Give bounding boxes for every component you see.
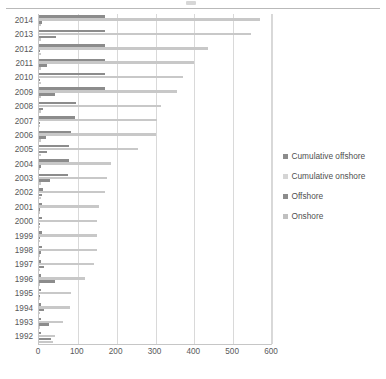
x-axis-tick-labels: 0100200300400500600: [38, 348, 272, 364]
bar-group-1994: [39, 302, 271, 316]
legend-swatch-icon: [283, 194, 288, 199]
bar-group-2005: [39, 144, 271, 158]
bar-onshore-1996: [39, 283, 40, 285]
bar-group-2000: [39, 215, 271, 229]
bar-onshore-2006: [39, 139, 41, 141]
legend-label: Cumulative offshore: [292, 152, 366, 161]
y-tick-label-1993: 1993: [15, 319, 33, 327]
bar-chart: 2014201320122011201020092008200720062005…: [0, 0, 386, 379]
y-tick-label-1994: 1994: [15, 305, 33, 313]
bar-group-2003: [39, 172, 271, 186]
legend-item-cumulative-offshore[interactable]: Cumulative offshore: [283, 152, 383, 161]
y-tick-label-2013: 2013: [15, 31, 33, 39]
x-tick-label-200: 200: [109, 348, 123, 356]
bar-group-1998: [39, 244, 271, 258]
bar-offshore-2013: [39, 36, 56, 38]
bar-cumulative-onshore-1994: [39, 306, 70, 308]
bar-onshore-2000: [39, 226, 40, 228]
y-tick-label-2008: 2008: [15, 103, 33, 111]
bar-cumulative-onshore-2014: [39, 18, 260, 20]
x-tick-label-0: 0: [36, 348, 41, 356]
bar-cumulative-onshore-2013: [39, 33, 251, 35]
bar-onshore-2004: [39, 168, 40, 170]
y-axis-category-labels: 2014201320122011201020092008200720062005…: [0, 14, 36, 345]
gridline-600: [272, 14, 273, 344]
y-tick-label-1992: 1992: [15, 333, 33, 341]
bar-group-2013: [39, 28, 271, 42]
bar-onshore-1994: [39, 312, 40, 314]
bar-onshore-2013: [39, 38, 41, 40]
bar-group-1996: [39, 273, 271, 287]
x-tick-label-500: 500: [225, 348, 239, 356]
bar-onshore-2011: [39, 67, 41, 69]
bar-onshore-2009: [39, 96, 41, 98]
bar-group-2001: [39, 201, 271, 215]
legend-item-cumulative-onshore[interactable]: Cumulative onshore: [283, 172, 383, 181]
bar-onshore-1993: [39, 326, 40, 328]
y-tick-label-1996: 1996: [15, 276, 33, 284]
legend-swatch-icon: [283, 154, 288, 159]
bar-cumulative-onshore-2007: [39, 119, 157, 121]
bar-cumulative-onshore-2004: [39, 162, 111, 164]
bar-cumulative-onshore-2008: [39, 105, 161, 107]
bar-cumulative-onshore-2000: [39, 220, 97, 222]
y-tick-label-2007: 2007: [15, 118, 33, 126]
bar-onshore-1992: [39, 341, 53, 343]
bar-cumulative-onshore-2005: [39, 148, 138, 150]
y-tick-label-1997: 1997: [15, 261, 33, 269]
bar-group-2002: [39, 187, 271, 201]
y-tick-label-1998: 1998: [15, 247, 33, 255]
bar-onshore-2001: [39, 211, 40, 213]
y-tick-label-1995: 1995: [15, 290, 33, 298]
bar-cumulative-onshore-2012: [39, 47, 208, 49]
bar-group-2007: [39, 115, 271, 129]
bar-group-1999: [39, 230, 271, 244]
y-tick-label-2002: 2002: [15, 189, 33, 197]
y-tick-label-2014: 2014: [15, 17, 33, 25]
bar-cumulative-onshore-2006: [39, 133, 156, 135]
bar-onshore-1999: [39, 240, 40, 242]
y-tick-label-2001: 2001: [15, 204, 33, 212]
y-tick-label-2004: 2004: [15, 161, 33, 169]
bar-group-2004: [39, 158, 271, 172]
bar-group-1997: [39, 259, 271, 273]
legend-item-onshore[interactable]: Onshore: [283, 212, 383, 221]
bar-onshore-1995: [39, 297, 40, 299]
bar-group-2011: [39, 57, 271, 71]
bar-onshore-1998: [39, 254, 40, 256]
y-tick-label-2011: 2011: [15, 60, 33, 68]
legend-label: Cumulative onshore: [292, 172, 366, 181]
bar-group-2006: [39, 129, 271, 143]
y-tick-label-2012: 2012: [15, 46, 33, 54]
bar-cumulative-onshore-1997: [39, 263, 94, 265]
bar-cumulative-onshore-1995: [39, 292, 71, 294]
bar-cumulative-onshore-2001: [39, 205, 99, 207]
bar-cumulative-onshore-2010: [39, 76, 183, 78]
bar-onshore-2008: [39, 110, 41, 112]
bar-cumulative-onshore-2002: [39, 191, 105, 193]
bar-series-container: [39, 14, 271, 344]
x-tick-label-600: 600: [264, 348, 278, 356]
bar-group-2008: [39, 100, 271, 114]
legend-item-offshore[interactable]: Offshore: [283, 192, 383, 201]
bar-offshore-1993: [39, 323, 49, 325]
bar-group-1995: [39, 287, 271, 301]
chart-legend: Cumulative offshoreCumulative onshoreOff…: [283, 152, 383, 232]
bar-group-2010: [39, 72, 271, 86]
bar-group-1992: [39, 331, 271, 345]
y-tick-label-2010: 2010: [15, 74, 33, 82]
bar-onshore-2003: [39, 182, 41, 184]
bar-onshore-2014: [39, 24, 41, 26]
bar-onshore-2005: [39, 154, 41, 156]
y-tick-label-1999: 1999: [15, 233, 33, 241]
bar-cumulative-onshore-1999: [39, 234, 97, 236]
bar-group-2014: [39, 14, 271, 28]
bar-offshore-1996: [39, 280, 55, 282]
y-tick-label-2006: 2006: [15, 132, 33, 140]
y-tick-label-2003: 2003: [15, 175, 33, 183]
x-tick-label-400: 400: [186, 348, 200, 356]
bar-cumulative-onshore-2009: [39, 90, 177, 92]
bar-cumulative-onshore-1998: [39, 249, 97, 251]
y-tick-label-2009: 2009: [15, 89, 33, 97]
y-tick-label-2000: 2000: [15, 218, 33, 226]
